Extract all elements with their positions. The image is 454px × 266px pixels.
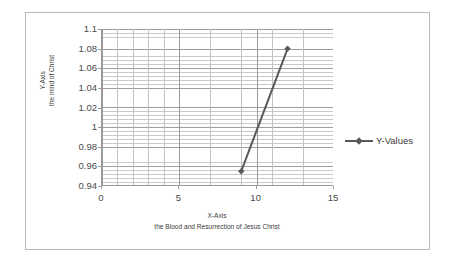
y-axis-tick-labels: 0.940.960.9811.021.041.061.081.1 [47,29,97,186]
x-axis-tick-label: 15 [328,193,339,203]
x-axis-title-line1: X-Axis [101,211,333,222]
data-point-marker [284,45,290,51]
y-axis-title-line1: Y-Axis [39,71,46,89]
data-point-marker [238,168,244,174]
chart-frame: Y-Axis the mind of Christ 0.940.960.9811… [25,12,430,250]
x-axis-title-line2: the Blood and Resurrection of Jesus Chri… [101,222,333,233]
x-axis-tick-label: 5 [176,193,181,203]
legend-label-y-values: Y-Values [376,136,413,146]
x-axis-tick-label: 10 [250,193,261,203]
y-axis-tick-label: 1.06 [51,64,97,74]
legend: Y-Values [344,135,413,147]
y-axis-tick-label: 0.94 [51,181,97,191]
y-axis-tick-label: 1.02 [51,103,97,113]
y-axis-tick-label: 1.08 [51,44,97,54]
x-axis-tick-mark [178,186,179,189]
x-axis-tick-labels: 051015 [101,193,333,209]
x-axis-tick-mark [101,186,102,189]
legend-marker-diamond-icon [344,135,374,147]
plot-area [101,29,333,186]
x-axis-tick-mark [333,186,334,189]
x-axis-tick-label: 0 [98,193,103,203]
data-series-layer [102,29,334,186]
x-axis-tick-mark [256,186,257,189]
series-line-y-values [241,49,287,172]
y-axis-tick-label: 1.04 [51,83,97,93]
y-axis-tick-label: 1 [51,122,97,132]
y-axis-tick-label: 0.96 [51,162,97,172]
y-axis-tick-label: 0.98 [51,142,97,152]
y-axis-tick-label: 1.1 [51,24,97,34]
x-axis-title: X-Axis the Blood and Resurrection of Jes… [101,211,333,232]
